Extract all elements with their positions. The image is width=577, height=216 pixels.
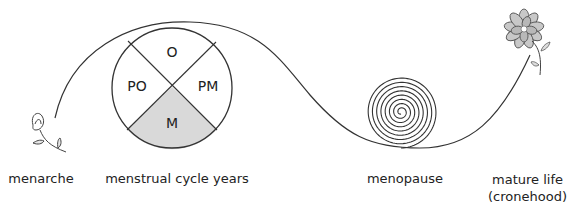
mature-life-label: mature life (cronehood)	[480, 171, 575, 205]
segment-po-label: PO	[127, 78, 146, 94]
segment-m-label: M	[166, 115, 178, 131]
life-stages-diagram: O PM M PO	[0, 0, 577, 216]
mature-life-line2: (cronehood)	[480, 188, 575, 205]
mature-life-line1: mature life	[480, 171, 575, 188]
menopause-label: menopause	[360, 171, 450, 186]
cycle-wheel: O PM M PO	[112, 28, 232, 149]
flower-icon	[503, 9, 550, 75]
segment-o-label: O	[166, 44, 177, 60]
menstrual-cycle-years-label: menstrual cycle years	[102, 171, 252, 186]
menarche-label: menarche	[6, 171, 76, 186]
spiral-icon	[368, 78, 436, 148]
bud-icon	[32, 113, 66, 152]
life-curve	[55, 22, 530, 148]
segment-pm-label: PM	[198, 78, 219, 94]
